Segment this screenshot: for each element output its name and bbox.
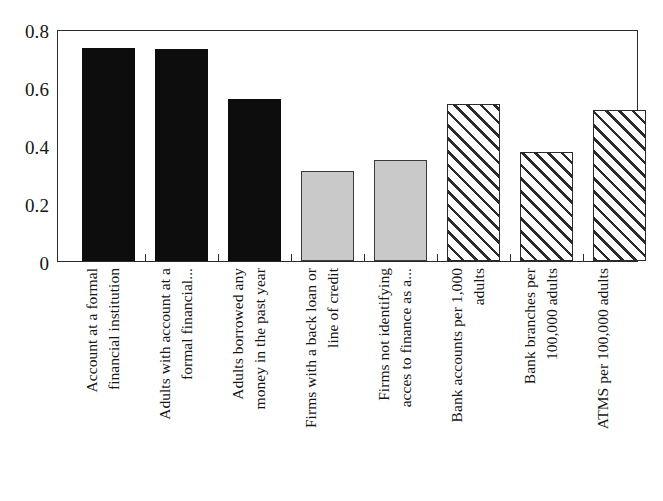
x-axis-category-label: Adults borrowed any money in the past ye… — [227, 268, 291, 493]
y-axis-tick-label: 0.8 — [0, 22, 49, 41]
plot-inner — [58, 31, 637, 261]
x-axis-category-label: ATMS per 100,000 adults — [592, 268, 656, 493]
y-axis-tick-label: 0.2 — [0, 196, 49, 215]
bar-adults-borrowed-money-past-year — [228, 99, 281, 261]
bar-adults-with-account-formal-financial — [155, 49, 208, 261]
x-axis-tick-mark — [291, 254, 292, 261]
bar-firms-with-back-loan-or-line-of-credit — [301, 171, 354, 261]
bar-account-formal-financial-institution — [82, 48, 135, 261]
bar-bank-branches-per-100000-adults — [520, 152, 573, 261]
bar-bank-accounts-per-1000-adults — [447, 104, 500, 261]
bar-chart: 0.8 0.6 0.4 0.2 0 Account a — [0, 0, 663, 501]
x-axis-category-label: Account at a formal financial institutio… — [81, 268, 145, 493]
x-axis-tick-mark — [145, 254, 146, 261]
x-axis-category-label: Firms not identifying acces to finance a… — [373, 268, 437, 493]
x-axis-tick-mark — [583, 254, 584, 261]
bar-atms-per-100000-adults — [593, 110, 646, 261]
y-axis-tick-label: 0.4 — [0, 138, 49, 157]
x-axis-category-label: Firms with a back loan or line of credit — [300, 268, 364, 493]
x-axis-tick-mark — [437, 254, 438, 261]
bar-firms-not-identifying-acces-to-finance — [374, 160, 427, 261]
x-axis-tick-mark — [218, 254, 219, 261]
x-axis-category-label: Bank branches per 100,000 adults — [519, 268, 583, 493]
y-axis-tick-label: 0 — [0, 254, 49, 273]
x-axis-category-label: Adults with account at a formal financia… — [154, 268, 218, 493]
y-axis-tick-label: 0.6 — [0, 80, 49, 99]
x-axis-tick-mark — [364, 254, 365, 261]
x-axis-category-label: Bank accounts per 1,000 adults — [446, 268, 510, 493]
plot-area — [57, 30, 638, 262]
x-axis-tick-mark — [510, 254, 511, 261]
